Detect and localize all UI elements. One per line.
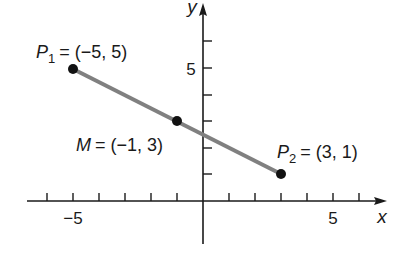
y-tick-label-5: 5 [186,60,195,79]
label-p2-subscript: 2 [289,151,296,166]
label-m-name: M [76,135,91,155]
x-tick-label-neg5: −5 [63,209,82,228]
label-p2-coords: = (3, 1) [300,142,358,162]
label-p2-name: P [277,142,289,162]
x-axis-label: x [376,206,388,227]
label-p1: P1= (−5, 5) [36,42,127,66]
y-axis-label: y [185,0,198,17]
point-p2 [276,169,286,179]
label-m: M= (−1, 3) [76,135,163,155]
label-m-coords: = (−1, 3) [95,135,163,155]
coordinate-plane-figure: −5 5 x 5 y P1= (−5, 5) M= (−1, 3) P2= (3… [0,0,399,260]
x-tick-label-5: 5 [328,209,337,228]
label-p1-coords: = (−5, 5) [59,42,127,62]
label-p2: P2= (3, 1) [277,142,358,166]
label-p1-name: P [36,42,48,62]
label-p1-subscript: 1 [48,51,55,66]
point-m [172,116,182,126]
y-axis: 5 y [185,0,212,244]
x-axis: −5 5 x [27,193,388,228]
point-p1 [68,64,78,74]
y-axis-ticks [203,41,212,174]
